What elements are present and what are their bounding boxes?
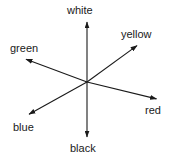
axis-arrow-blue <box>29 82 87 114</box>
axis-label-red: red <box>145 104 161 116</box>
axis-label-black: black <box>70 142 96 154</box>
axis-arrow-yellow <box>87 46 137 82</box>
axis-label-green: green <box>10 42 38 54</box>
axis-arrow-red <box>87 82 157 99</box>
axis-label-yellow: yellow <box>121 28 152 40</box>
axis-label-blue: blue <box>13 121 34 133</box>
axes-lines <box>0 0 172 163</box>
axis-label-white: white <box>67 4 93 16</box>
color-axes-diagram: white yellow green red blue black <box>0 0 172 163</box>
axis-arrow-green <box>26 59 87 82</box>
